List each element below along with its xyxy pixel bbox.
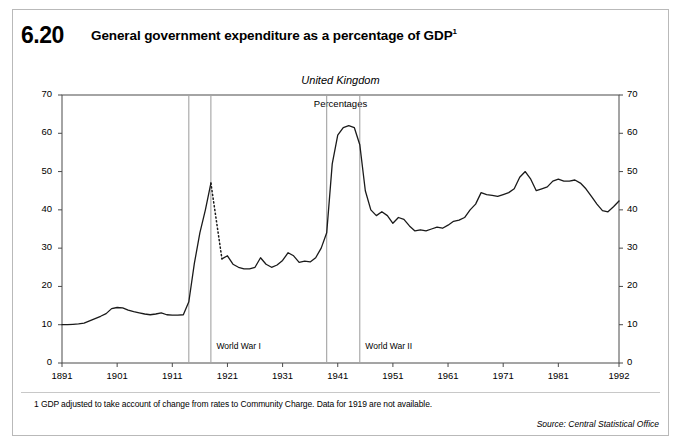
figure-footnote: 1 GDP adjusted to take account of change… [34, 399, 432, 409]
world-war-2-label: World War II [365, 341, 412, 351]
y-axis-tick-left: 70 [26, 88, 52, 99]
x-axis-tick: 1921 [207, 370, 247, 381]
x-axis-tick: 1961 [428, 370, 468, 381]
y-axis-tick-right: 60 [627, 126, 653, 137]
y-axis-tick-right: 40 [627, 203, 653, 214]
y-axis-tick-right: 20 [627, 279, 653, 290]
y-axis-tick-left: 60 [26, 126, 52, 137]
chart-axes [58, 95, 623, 367]
y-axis-tick-right: 70 [627, 88, 653, 99]
x-axis-tick: 1951 [373, 370, 413, 381]
x-axis-tick: 1971 [483, 370, 523, 381]
footnote-divider [21, 392, 660, 393]
y-axis-tick-left: 0 [26, 356, 52, 367]
x-axis-tick: 1891 [42, 370, 82, 381]
x-axis-tick: 1992 [599, 370, 639, 381]
y-axis-tick-left: 10 [26, 318, 52, 329]
y-axis-tick-right: 30 [627, 241, 653, 252]
figure-page: 6.20 General government expenditure as a… [0, 0, 681, 445]
world-war-1-label: World War I [216, 341, 260, 351]
y-axis-tick-right: 50 [627, 165, 653, 176]
x-axis-tick: 1931 [263, 370, 303, 381]
war-period-lines [189, 96, 360, 362]
y-axis-tick-left: 50 [26, 165, 52, 176]
x-axis-tick: 1901 [97, 370, 137, 381]
expenditure-line-series [62, 126, 619, 325]
y-axis-tick-left: 30 [26, 241, 52, 252]
x-axis-tick: 1911 [152, 370, 192, 381]
y-axis-tick-right: 0 [627, 356, 653, 367]
y-axis-tick-left: 20 [26, 279, 52, 290]
y-axis-tick-left: 40 [26, 203, 52, 214]
figure-source: Source: Central Statistical Office [537, 419, 659, 429]
x-axis-tick: 1981 [538, 370, 578, 381]
x-axis-tick: 1941 [318, 370, 358, 381]
y-axis-tick-right: 10 [627, 318, 653, 329]
